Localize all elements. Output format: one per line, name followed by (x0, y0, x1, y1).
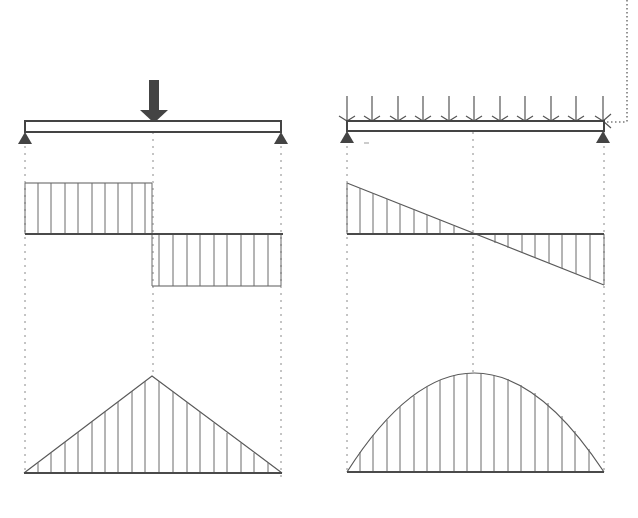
panel-distributed-load (339, 96, 611, 472)
pin-support-icon (274, 132, 288, 144)
panel-point-load (18, 80, 288, 480)
beam (347, 121, 604, 131)
pin-support-icon (18, 132, 32, 144)
pin-support-icon (596, 131, 610, 143)
moment-diagram (24, 376, 282, 473)
pin-support-icon (340, 131, 354, 143)
guide-lines (347, 132, 604, 470)
shear-diagram (347, 183, 604, 285)
shear-diagram (25, 183, 283, 286)
moment-diagram (347, 373, 604, 472)
beam-diagrams (0, 0, 638, 518)
point-load-arrow-icon (140, 80, 168, 123)
beam (25, 121, 281, 132)
guide-lines (25, 132, 281, 480)
dotted-frame (607, 0, 627, 122)
